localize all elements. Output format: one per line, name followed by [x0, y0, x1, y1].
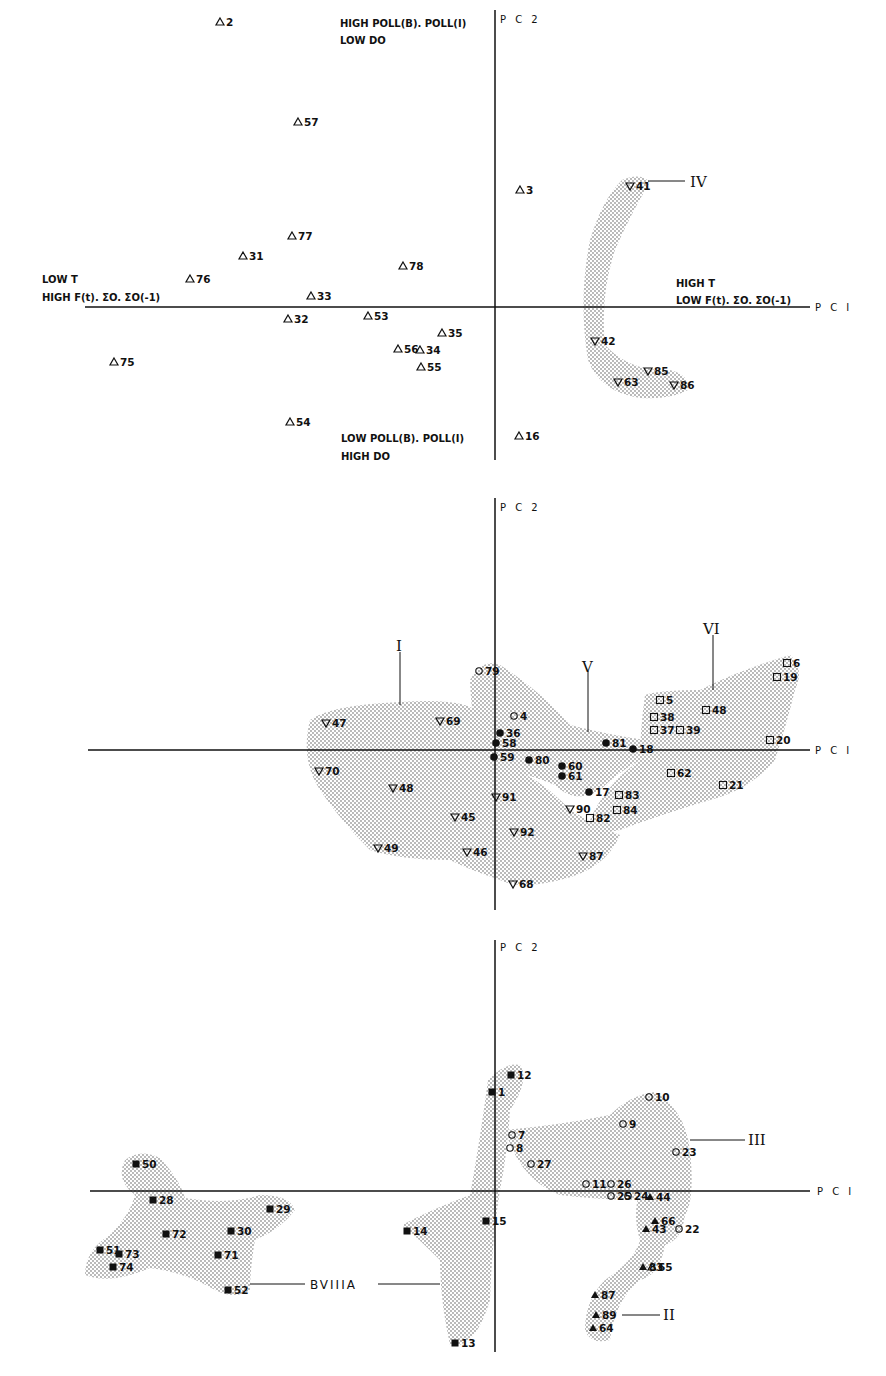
filled-square-marker-icon	[116, 1251, 123, 1258]
data-point: 3	[516, 184, 533, 196]
point-label: 75	[120, 356, 135, 368]
panel-middle: P C 2 P C I I V VI 794365859806061811817…	[88, 498, 852, 910]
filled-circle-marker-icon	[629, 745, 637, 753]
triangle-marker-icon	[516, 186, 524, 193]
filled-square-marker-icon	[267, 1206, 274, 1213]
triangle-marker-icon	[438, 329, 446, 336]
point-label: 86	[680, 379, 695, 391]
triangle-marker-icon	[239, 252, 247, 259]
data-point: 2	[216, 16, 233, 28]
point-label: 87	[601, 1289, 616, 1301]
point-label: 41	[636, 180, 651, 192]
point-label: 68	[519, 878, 534, 890]
point-label: 39	[686, 724, 701, 736]
filled-circle-marker-icon	[492, 739, 500, 747]
pc2-label: P C 2	[500, 502, 541, 513]
annotation-high-poll: HIGH POLL(B). POLL(I)	[340, 18, 466, 29]
point-label: 27	[537, 1158, 552, 1170]
filled-circle-marker-icon	[602, 739, 610, 747]
point-label: 37	[660, 724, 675, 736]
point-label: 71	[224, 1249, 239, 1261]
filled-square-marker-icon	[452, 1340, 459, 1347]
triangle-marker-icon	[307, 292, 315, 299]
data-point: 53	[364, 310, 389, 322]
triangle-marker-icon	[399, 262, 407, 269]
annotation-low-t: LOW T	[42, 274, 78, 285]
point-label: 22	[685, 1223, 700, 1235]
triangle-marker-icon	[515, 432, 523, 439]
point-label: 47	[332, 717, 347, 729]
filled-square-marker-icon	[404, 1228, 411, 1235]
point-label: 12	[517, 1069, 532, 1081]
annotation-high-do: HIGH DO	[341, 451, 390, 462]
point-label: 1	[498, 1086, 505, 1098]
point-label: 89	[602, 1309, 617, 1321]
data-point: 32	[284, 313, 309, 325]
point-label: 42	[601, 335, 616, 347]
triangle-marker-icon	[294, 118, 302, 125]
point-label: 83	[649, 1261, 664, 1273]
group-label-IV: IV	[690, 173, 708, 191]
triangle-marker-icon	[110, 358, 118, 365]
data-point: 55	[417, 361, 442, 373]
pc2-label: P C 2	[500, 14, 541, 25]
point-label: 79	[485, 665, 500, 677]
triangle-marker-icon	[364, 312, 372, 319]
point-label: 82	[596, 812, 611, 824]
point-label: 61	[568, 770, 583, 782]
filled-circle-marker-icon	[490, 753, 498, 761]
point-label: 45	[461, 811, 476, 823]
point-label: 76	[196, 273, 211, 285]
group-label-II: II	[663, 1306, 675, 1324]
point-label: 70	[325, 765, 340, 777]
point-label: 62	[677, 767, 692, 779]
filled-square-marker-icon	[483, 1218, 490, 1225]
point-label: 21	[729, 779, 744, 791]
point-label: 52	[234, 1284, 249, 1296]
data-point: 77	[288, 230, 313, 242]
panel-top: P C 2 P C I HIGH POLL(B). POLL(I) LOW DO…	[42, 10, 852, 462]
data-point: 56	[394, 343, 419, 355]
point-label: 30	[237, 1225, 252, 1237]
point-label: 24	[634, 1190, 649, 1202]
pc1-label: P C I	[815, 302, 852, 313]
data-point: 31	[239, 250, 264, 262]
pca-figure: P C 2 P C I HIGH POLL(B). POLL(I) LOW DO…	[0, 0, 886, 1376]
data-point: 78	[399, 260, 424, 272]
point-label: 73	[125, 1248, 140, 1260]
triangle-marker-icon	[284, 315, 292, 322]
annotation-high-t: HIGH T	[676, 278, 715, 289]
point-label: 63	[624, 376, 639, 388]
annotation-low-poll: LOW POLL(B). POLL(I)	[341, 433, 464, 444]
point-label: 16	[525, 430, 540, 442]
triangle-marker-icon	[286, 418, 294, 425]
cluster-BVIIIA-left-shading	[85, 1153, 295, 1295]
point-label: 59	[500, 751, 515, 763]
point-label: 90	[576, 803, 591, 815]
point-label: 20	[776, 734, 791, 746]
group-label-III: III	[748, 1131, 766, 1149]
point-label: 23	[682, 1146, 697, 1158]
point-label: 9	[629, 1118, 636, 1130]
point-label: 57	[304, 116, 319, 128]
filled-circle-marker-icon	[558, 772, 566, 780]
data-point: 34	[416, 344, 441, 356]
filled-circle-marker-icon	[496, 729, 504, 737]
point-label: 34	[426, 344, 441, 356]
point-label: 92	[520, 826, 535, 838]
filled-square-marker-icon	[150, 1197, 157, 1204]
pc1-label: P C I	[815, 745, 852, 756]
triangle-marker-icon	[216, 18, 224, 25]
point-label: 14	[413, 1225, 428, 1237]
point-label: 26	[617, 1178, 632, 1190]
point-label: 64	[599, 1322, 614, 1334]
point-label: 48	[399, 782, 414, 794]
point-label: 18	[639, 743, 654, 755]
group-label-V: V	[581, 658, 594, 676]
triangle-marker-icon	[186, 275, 194, 282]
point-label: 72	[172, 1228, 187, 1240]
data-point: 76	[186, 273, 211, 285]
point-label: 17	[595, 786, 610, 798]
point-label: 5	[666, 694, 673, 706]
data-point: 75	[110, 356, 135, 368]
